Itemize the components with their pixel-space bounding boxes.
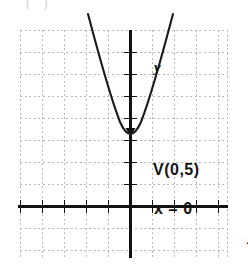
y-axis-label: y: [154, 59, 161, 76]
vertex-annotation: V(0,5): [153, 161, 200, 179]
parabola-figure: ( ): [0, 0, 248, 270]
x-axis-label: x: [247, 231, 248, 248]
axes-and-curve: [20, 30, 228, 258]
plot-area: y x V(0,5) x = 0: [20, 30, 228, 258]
scan-artifact: ( ): [26, 0, 84, 10]
axis-of-symmetry-annotation: x = 0: [154, 200, 193, 218]
